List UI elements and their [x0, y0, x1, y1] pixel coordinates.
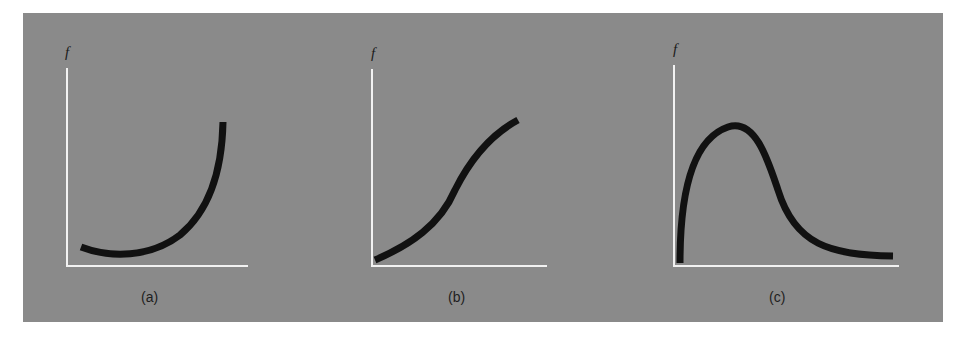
subplot-b-y-label: f — [371, 45, 375, 62]
figure-graphics — [0, 0, 961, 337]
subplot-b-axes — [371, 69, 547, 266]
subplot-c-axes — [673, 65, 899, 266]
subplot-c-caption: (c) — [769, 289, 785, 305]
subplot-a-curve — [81, 122, 223, 254]
subplot-c-curve — [680, 126, 893, 263]
subplot-a-caption: (a) — [141, 289, 158, 305]
subplot-b-caption: (b) — [448, 289, 465, 305]
subplot-c-y-label: f — [673, 41, 677, 58]
subplot-a-y-label: f — [65, 44, 69, 61]
subplot-b-curve — [375, 120, 518, 260]
